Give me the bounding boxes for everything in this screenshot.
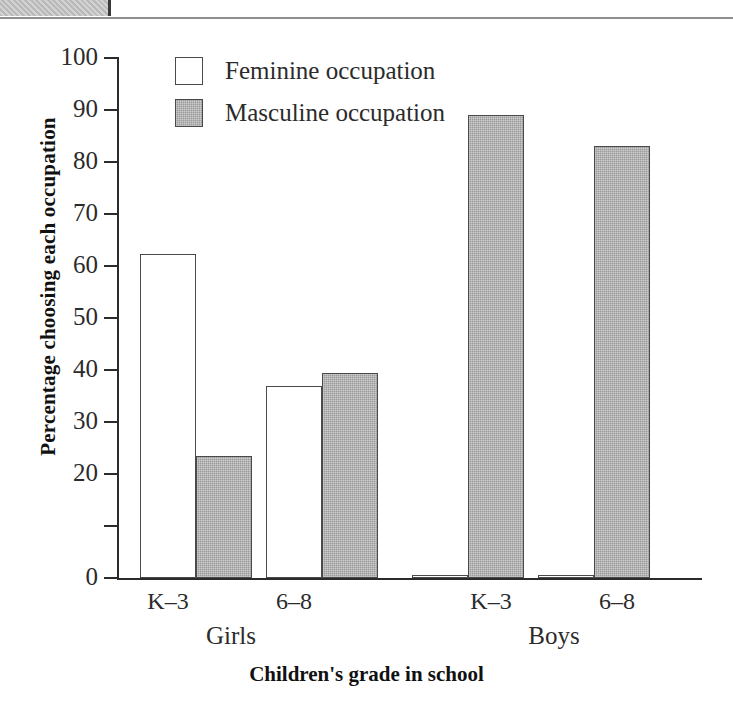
bar-girls-6-8-masculine [322, 373, 378, 578]
legend-item-feminine: Feminine occupation [175, 50, 445, 92]
legend-label: Masculine occupation [225, 99, 445, 127]
y-axis-tick [104, 265, 118, 267]
y-axis-tick [104, 109, 118, 111]
bar-boys-k-3-masculine [468, 115, 524, 578]
y-axis-tick [104, 317, 118, 319]
x-axis-line [117, 578, 702, 580]
x-axis-grade-label: 6–8 [567, 588, 667, 615]
y-axis-tick [104, 421, 118, 423]
chart-legend: Feminine occupationMasculine occupation [175, 50, 445, 134]
bar-girls-6-8-feminine [266, 386, 322, 578]
x-axis-grade-label: 6–8 [244, 588, 344, 615]
plot-area [118, 58, 700, 578]
x-axis-grade-label: K–3 [118, 588, 218, 615]
y-axis-title: Percentage choosing each occupation [36, 27, 61, 547]
y-axis-tick [104, 57, 118, 59]
x-axis-grade-label: K–3 [441, 588, 541, 615]
legend-item-masculine: Masculine occupation [175, 92, 445, 134]
y-axis-tick [104, 525, 118, 527]
bar-girls-k-3-masculine [196, 456, 252, 578]
header-divider [0, 17, 733, 19]
x-axis-title: Children's grade in school [0, 662, 733, 687]
y-axis-tick-label: 0 [0, 563, 98, 591]
bar-boys-k-3-feminine [412, 575, 468, 578]
bar-girls-k-3-feminine [140, 254, 196, 578]
y-axis-tick [104, 577, 118, 579]
x-axis-group-label-girls: Girls [171, 622, 291, 650]
legend-swatch-masculine-icon [175, 99, 203, 127]
bar-chart-figure: 02030405060708090100 Percentage choosing… [0, 22, 733, 702]
y-axis-tick [104, 369, 118, 371]
page-header [0, 0, 733, 22]
bar-boys-6-8-feminine [538, 575, 594, 578]
y-axis-tick [104, 473, 118, 475]
x-axis-group-label-boys: Boys [494, 622, 614, 650]
legend-swatch-feminine-icon [175, 57, 203, 85]
bar-boys-6-8-masculine [594, 146, 650, 578]
legend-label: Feminine occupation [225, 57, 435, 85]
y-axis-tick [104, 213, 118, 215]
chapter-tab-marker [0, 0, 111, 16]
y-axis-tick [104, 161, 118, 163]
